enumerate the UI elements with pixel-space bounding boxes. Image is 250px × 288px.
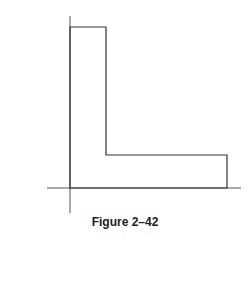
l-shape-outline (70, 27, 227, 188)
l-shape-diagram (0, 0, 250, 288)
figure-caption: Figure 2–42 (0, 215, 250, 229)
